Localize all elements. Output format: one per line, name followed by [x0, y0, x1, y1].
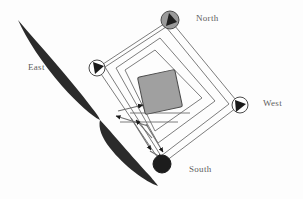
arrow-left-upper: [116, 116, 148, 126]
node-west[interactable]: [232, 97, 248, 113]
node-south[interactable]: [153, 155, 171, 173]
arrow-down-right: [146, 124, 163, 152]
node-south-circle[interactable]: [153, 155, 171, 173]
label-west: West: [263, 98, 282, 108]
center-square: [137, 69, 182, 114]
center-square-group: [137, 69, 182, 114]
label-east: East: [28, 62, 45, 72]
node-east[interactable]: [89, 60, 105, 76]
node-north[interactable]: [161, 11, 179, 29]
label-north: North: [196, 13, 219, 23]
blade-shapes: [18, 20, 158, 186]
diagram-svg: [0, 0, 303, 199]
label-south: South: [189, 164, 212, 174]
figure-canvas: North East West South: [0, 0, 303, 199]
